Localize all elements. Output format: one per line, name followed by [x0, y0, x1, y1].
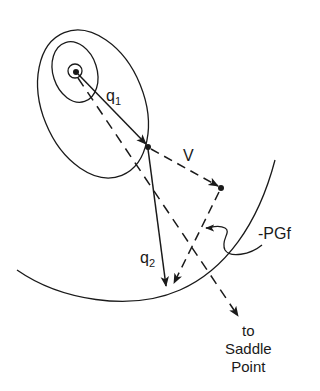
saddle-direction-arrow — [78, 78, 238, 316]
outer-contour — [17, 14, 169, 195]
constraint-surface — [17, 160, 275, 301]
saddle-point-label: to Saddle Point — [225, 322, 272, 376]
saddle-label-line2: Saddle — [225, 340, 272, 358]
contour-ellipses — [17, 14, 169, 195]
diagram-canvas — [0, 0, 320, 391]
q2-label: q2 — [140, 250, 155, 266]
v-label: V — [183, 148, 194, 164]
pgf-pointer — [206, 226, 262, 254]
saddle-label-line3: Point — [225, 358, 272, 376]
pgf-label: -PGf — [258, 226, 291, 242]
point-v-end — [218, 185, 224, 191]
saddle-label-line1: to — [225, 322, 272, 340]
q1-arrow — [78, 74, 146, 144]
q1-label: q1 — [106, 88, 121, 104]
